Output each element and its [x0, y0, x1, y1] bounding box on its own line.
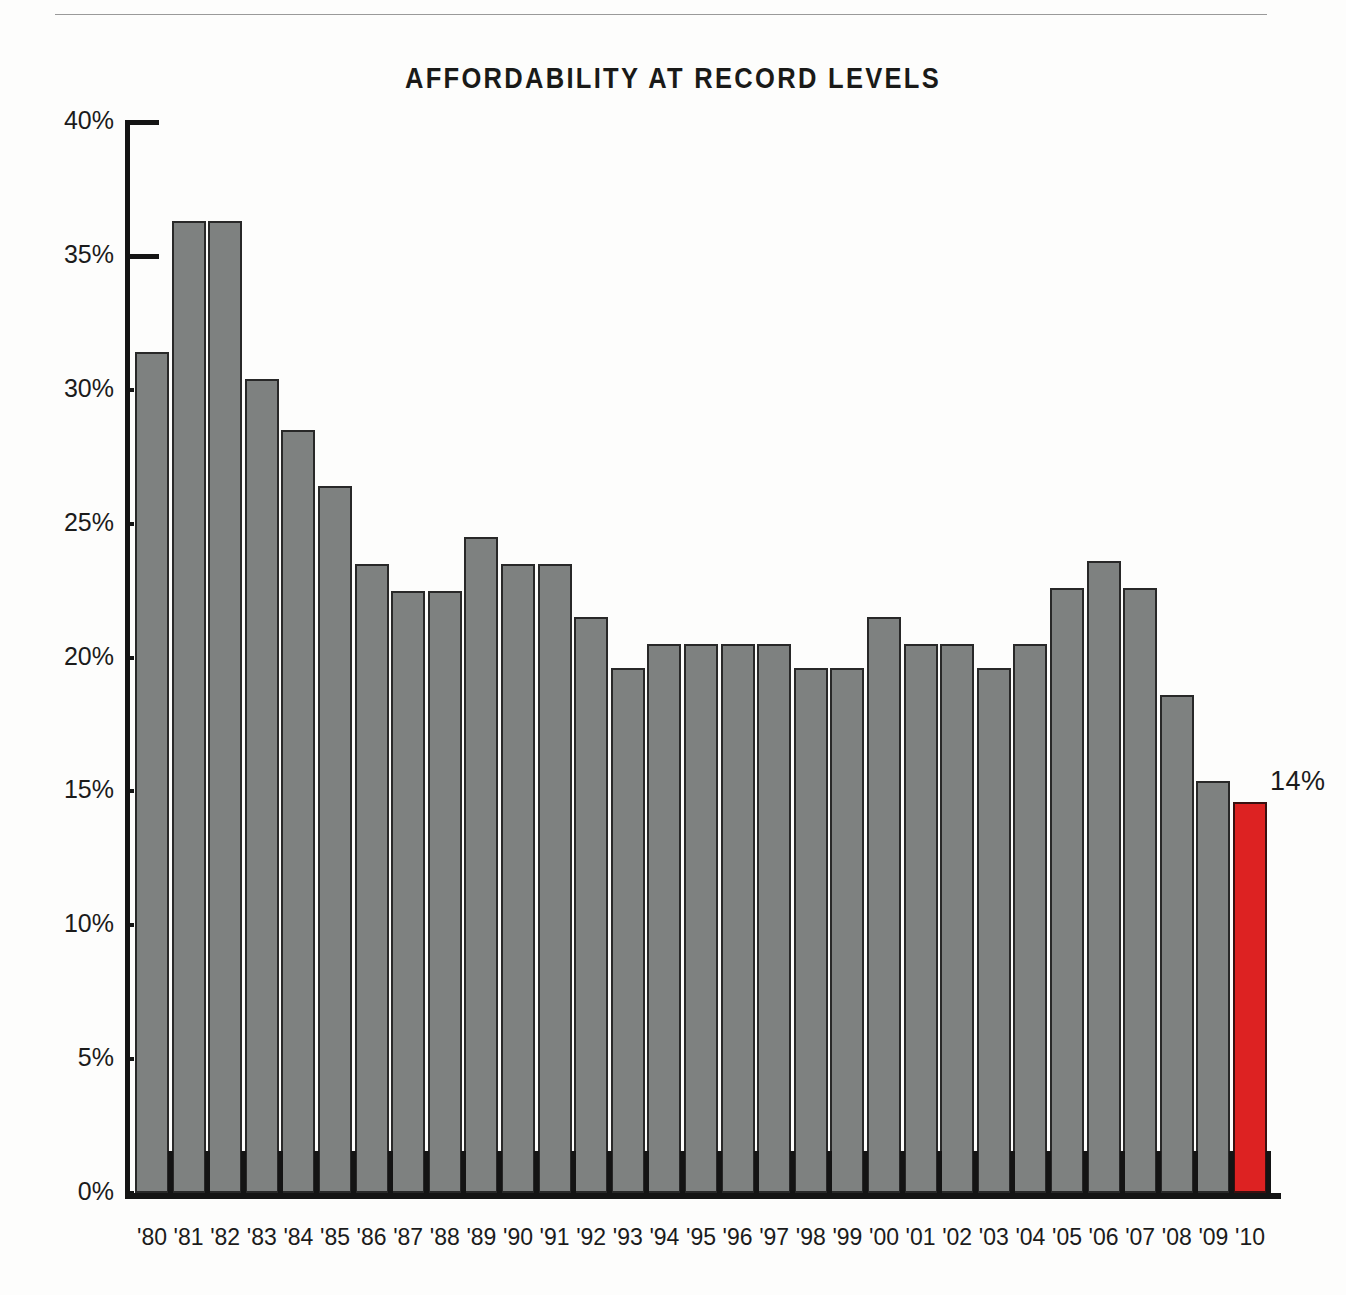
baseline-tick [644, 1151, 649, 1193]
baseline-tick [424, 1151, 429, 1193]
baseline-tick [717, 1151, 722, 1193]
baseline-tick [973, 1151, 978, 1193]
baseline-tick [863, 1151, 868, 1193]
chart-page: AFFORDABILITY AT RECORD LEVELS 0%5%10%15… [0, 0, 1346, 1295]
bar[interactable] [721, 644, 755, 1193]
bar[interactable] [172, 221, 206, 1193]
baseline-tick [754, 1151, 759, 1193]
y-axis-tick-label: 35% [48, 240, 114, 269]
bar[interactable] [1050, 588, 1084, 1193]
x-axis-tick-label: '10 [1224, 1224, 1276, 1251]
bar[interactable] [428, 591, 462, 1193]
bar[interactable] [684, 644, 718, 1193]
y-axis-tick-label: 30% [48, 374, 114, 403]
y-axis-tick-label: 20% [48, 642, 114, 671]
baseline-tick [241, 1151, 246, 1193]
baseline-tick [790, 1151, 795, 1193]
y-axis-tick-label: 5% [48, 1043, 114, 1072]
bar[interactable] [757, 644, 791, 1193]
y-axis-tick [125, 789, 134, 793]
y-axis-tick [125, 522, 134, 526]
bar[interactable] [208, 221, 242, 1193]
bar[interactable] [281, 430, 315, 1193]
y-axis-tick-label: 15% [48, 775, 114, 804]
baseline-tick [1266, 1151, 1271, 1193]
baseline-tick [571, 1151, 576, 1193]
baseline-tick [534, 1151, 539, 1193]
bar[interactable] [647, 644, 681, 1193]
baseline-tick [497, 1151, 502, 1193]
baseline-tick [1156, 1151, 1161, 1193]
baseline-tick [351, 1151, 356, 1193]
baseline-tick [827, 1151, 832, 1193]
y-axis-tick [125, 656, 134, 660]
bar[interactable] [977, 668, 1011, 1193]
bar[interactable] [391, 591, 425, 1193]
bar[interactable] [538, 564, 572, 1193]
bar[interactable] [318, 486, 352, 1193]
bar[interactable] [135, 352, 169, 1193]
bar[interactable] [1233, 802, 1267, 1193]
baseline-tick [461, 1151, 466, 1193]
x-axis-line [125, 1193, 1281, 1199]
bar[interactable] [940, 644, 974, 1193]
bar[interactable] [1013, 644, 1047, 1193]
bar[interactable] [904, 644, 938, 1193]
baseline-tick [278, 1151, 283, 1193]
y-axis-tick-label: 10% [48, 909, 114, 938]
baseline-tick [1193, 1151, 1198, 1193]
bar[interactable] [574, 617, 608, 1193]
baseline-tick [388, 1151, 393, 1193]
bar[interactable] [245, 379, 279, 1193]
bar[interactable] [501, 564, 535, 1193]
y-axis-tick [125, 1191, 134, 1195]
baseline-tick [205, 1151, 210, 1193]
y-axis-tick [125, 923, 134, 927]
baseline-tick [607, 1151, 612, 1193]
bar[interactable] [611, 668, 645, 1193]
y-axis-tick-label: 40% [48, 106, 114, 135]
bar[interactable] [867, 617, 901, 1193]
bar[interactable] [1087, 561, 1121, 1193]
y-axis-tick-label: 0% [48, 1177, 114, 1206]
baseline-tick [168, 1151, 173, 1193]
baseline-tick [1010, 1151, 1015, 1193]
bar[interactable] [830, 668, 864, 1193]
baseline-tick [314, 1151, 319, 1193]
y-axis-tick [125, 120, 159, 125]
y-axis-tick [125, 388, 134, 392]
bar[interactable] [464, 537, 498, 1193]
bar[interactable] [794, 668, 828, 1193]
bar-value-label: 14% [1270, 766, 1326, 797]
bar[interactable] [1123, 588, 1157, 1193]
baseline-tick [1229, 1151, 1234, 1193]
bar[interactable] [355, 564, 389, 1193]
baseline-tick [937, 1151, 942, 1193]
bar[interactable] [1196, 781, 1230, 1193]
baseline-tick [1046, 1151, 1051, 1193]
bar[interactable] [1160, 695, 1194, 1193]
baseline-tick [1120, 1151, 1125, 1193]
y-axis-tick [125, 1057, 134, 1061]
bar-chart-plot: 0%5%10%15%20%25%30%35%40% 14% '80'81'82'… [0, 0, 1346, 1295]
y-axis-tick [125, 254, 159, 259]
baseline-tick [900, 1151, 905, 1193]
baseline-tick [1083, 1151, 1088, 1193]
baseline-tick [680, 1151, 685, 1193]
y-axis-tick-label: 25% [48, 508, 114, 537]
